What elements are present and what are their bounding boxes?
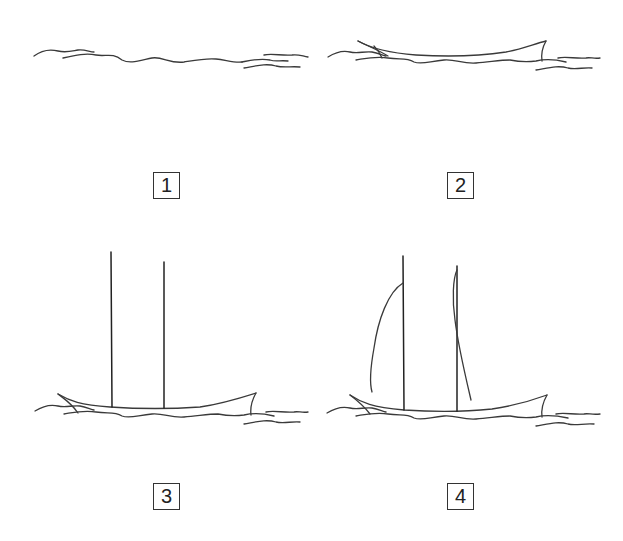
panel-1-drawing bbox=[20, 0, 320, 200]
main-mast bbox=[111, 252, 112, 407]
fore-sail bbox=[453, 270, 471, 400]
panel-4-drawing bbox=[310, 240, 610, 440]
step-number: 3 bbox=[161, 485, 172, 508]
step-label-1: 1 bbox=[153, 172, 180, 199]
boat-hull-icon bbox=[310, 0, 610, 200]
waves-icon bbox=[20, 0, 320, 200]
panel-2-drawing bbox=[310, 0, 610, 200]
boat-with-masts-icon bbox=[20, 240, 320, 440]
step-number: 4 bbox=[455, 485, 466, 508]
sailboat-icon bbox=[310, 240, 610, 440]
step-number: 1 bbox=[161, 174, 172, 197]
main-sail bbox=[371, 283, 403, 392]
main-mast bbox=[403, 256, 404, 410]
step-label-3: 3 bbox=[153, 483, 180, 510]
step-number: 2 bbox=[455, 174, 466, 197]
panel-3-drawing bbox=[20, 240, 320, 440]
step-label-2: 2 bbox=[447, 172, 474, 199]
step-label-4: 4 bbox=[447, 483, 474, 510]
